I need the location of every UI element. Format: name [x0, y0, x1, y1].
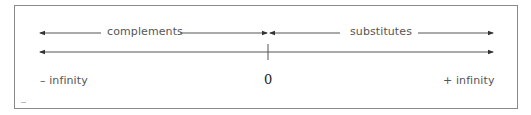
positive-infinity-label: + infinity — [443, 74, 495, 87]
complements-label: complements — [107, 25, 183, 38]
corner-mark — [21, 102, 26, 103]
negative-infinity-label: – infinity — [40, 74, 88, 87]
number-line-diagram — [0, 0, 531, 115]
zero-label: 0 — [264, 72, 272, 87]
substitutes-label: substitutes — [350, 25, 412, 38]
